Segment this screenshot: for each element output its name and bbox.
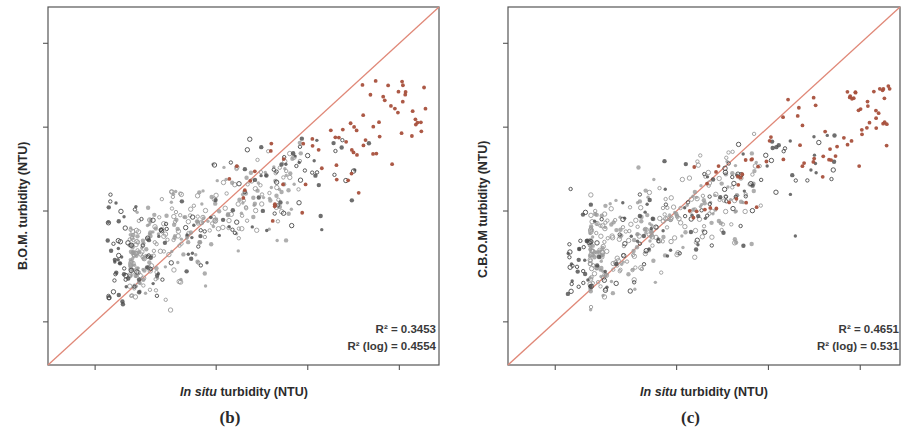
- panel-c-x-axis-label-italic: In situ: [640, 385, 677, 399]
- panel-c-x-axis-label: In situ turbidity (NTU): [508, 385, 900, 399]
- panel-b-x-axis-label: In situ turbidity (NTU): [48, 385, 440, 399]
- panel-b-identity-line: [48, 7, 439, 365]
- figure-container: B.O.M. turbidity (NTU) In situ turbidity…: [0, 0, 921, 437]
- panel-b-r2: R² = 0.3453: [347, 321, 436, 338]
- panel-c-plot: [460, 0, 921, 437]
- panel-c-r2-log: R² (log) = 0.531: [817, 338, 899, 355]
- panel-b-annotations: R² = 0.3453 R² (log) = 0.4554: [347, 321, 436, 356]
- panel-c-points: [566, 84, 892, 311]
- panel-c-identity-line: [508, 7, 900, 365]
- panel-b-plot: [0, 0, 460, 437]
- panel-b-points: [106, 79, 428, 312]
- panel-b-y-axis-label: B.O.M. turbidity (NTU): [16, 142, 30, 270]
- panel-c-caption: (c): [460, 408, 921, 428]
- panel-b-caption: (b): [0, 408, 460, 428]
- panel-c-annotations: R² = 0.4651 R² (log) = 0.531: [817, 321, 899, 356]
- panel-b-x-axis-label-italic: In situ: [180, 385, 217, 399]
- panel-b-x-axis-label-rest: turbidity (NTU): [217, 385, 308, 399]
- panel-b: B.O.M. turbidity (NTU) In situ turbidity…: [0, 0, 460, 437]
- panel-c-x-axis-label-rest: turbidity (NTU): [677, 385, 768, 399]
- panel-c-y-axis-label: C.B.O.M turbidity (NTU): [476, 141, 490, 278]
- panel-c: C.B.O.M turbidity (NTU) In situ turbidit…: [460, 0, 921, 437]
- panel-c-r2: R² = 0.4651: [817, 321, 899, 338]
- panel-b-r2-log: R² (log) = 0.4554: [347, 338, 436, 355]
